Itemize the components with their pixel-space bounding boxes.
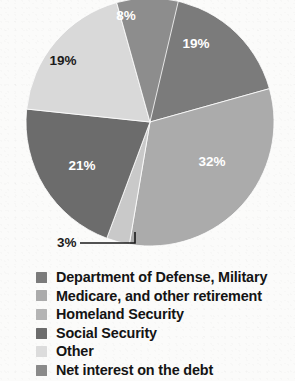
legend-item: Medicare, and other retirement (36, 287, 295, 306)
pie-slice-label: 32% (198, 154, 225, 169)
callout-label-3-percent: 3% (57, 235, 77, 250)
chart-legend: Department of Defense, MilitaryMedicare,… (36, 268, 295, 380)
legend-color-swatch (36, 309, 47, 320)
legend-item: Net interest on the debt (36, 361, 295, 380)
legend-item-label: Net interest on the debt (56, 363, 213, 377)
pie-chart: 19%32%21%19%8% 3% (0, 0, 295, 262)
legend-color-swatch (36, 328, 47, 339)
pie-slice-label: 19% (182, 36, 209, 51)
pie-chart-svg: 19%32%21%19%8% 3% (0, 0, 295, 262)
legend-item-label: Department of Defense, Military (56, 270, 267, 284)
legend-color-swatch (36, 290, 47, 301)
legend-item-label: Social Security (56, 326, 157, 340)
legend-color-swatch (36, 346, 47, 357)
legend-item: Department of Defense, Military (36, 268, 295, 287)
pie-slice-label: 8% (116, 8, 136, 23)
pie-slice-label: 21% (68, 158, 95, 173)
legend-color-swatch (36, 365, 47, 376)
pie-slice-label: 19% (49, 53, 76, 68)
legend-item-label: Homeland Security (56, 307, 184, 321)
legend-item: Other (36, 342, 295, 361)
legend-item-label: Other (56, 344, 94, 358)
legend-color-swatch (36, 272, 47, 283)
pie-slice-group (26, 0, 274, 246)
legend-item: Homeland Security (36, 305, 295, 324)
legend-item-label: Medicare, and other retirement (56, 289, 262, 303)
legend-item: Social Security (36, 324, 295, 343)
